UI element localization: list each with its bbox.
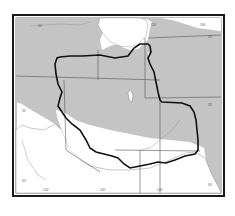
lon-label-bottom-3: 100° (157, 188, 164, 192)
lon-label-bottom-1: 120° (43, 188, 50, 192)
lat-label-left-1: 40° (38, 24, 43, 28)
lat-label-right-3: 30° (208, 183, 213, 187)
lat-label-right-2: 35° (208, 103, 213, 107)
lon-label-top-2: 100° (200, 23, 207, 27)
lon-label-bottom-2: 110° (100, 188, 107, 192)
range-map: 40° 35° 30° 110° 100° 40° 35° 30° 120° 1… (0, 0, 235, 216)
lat-label-right-1: 40° (208, 35, 213, 39)
lat-label-left-2: 35° (22, 109, 27, 113)
lon-label-top-1: 110° (151, 23, 158, 27)
lat-label-left-3: 30° (22, 179, 27, 183)
